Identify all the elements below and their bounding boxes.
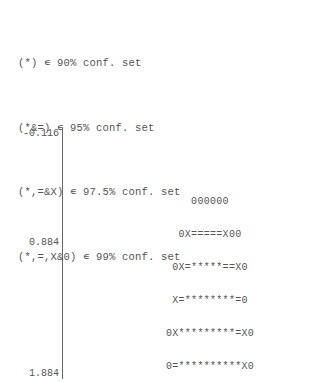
- legend-item-90: (*) ∊ 90% conf. set: [18, 53, 181, 75]
- confidence-set-plot: 000000 0X=====X00 0X=*****==X0 X=*******…: [140, 174, 280, 382]
- plot-row: X=********=0: [140, 295, 280, 306]
- y-tick-label-bottom: 1.884: [29, 368, 59, 380]
- plot-row: 0X*********=X0: [140, 328, 280, 339]
- plot-row: 0X=====X00: [140, 229, 280, 240]
- plot-row: 0X=*****==X0: [140, 262, 280, 273]
- y-tick-label-top: -0.116: [23, 128, 59, 140]
- y-tick-label-middle: 0.884: [29, 237, 59, 249]
- plot-row: 000000: [140, 196, 280, 207]
- plot-row: 0=**********X0: [140, 361, 280, 372]
- y-axis-line: [62, 128, 63, 379]
